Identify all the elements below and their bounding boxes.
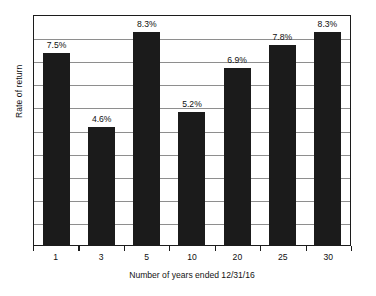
bar[interactable]: 5.2%	[178, 112, 205, 245]
bar-value-label: 4.6%	[92, 114, 112, 124]
bar-value-label: 5.2%	[182, 99, 202, 109]
plot-area: 7.5%4.6%8.3%5.2%6.9%7.8%8.3%	[33, 15, 351, 246]
bar-slot: 4.6%	[79, 16, 124, 245]
x-axis-tick-label: 3	[78, 252, 123, 262]
bar-value-label: 8.3%	[318, 19, 338, 29]
bar-slot: 8.3%	[124, 16, 169, 245]
bar-value-label: 7.8%	[272, 32, 292, 42]
bar-slot: 5.2%	[169, 16, 214, 245]
x-axis-tick	[33, 246, 34, 251]
x-axis-tick	[169, 246, 170, 251]
x-axis-tick	[78, 246, 79, 251]
x-axis-tick	[260, 246, 261, 251]
bar[interactable]: 7.5%	[43, 53, 70, 246]
bar[interactable]: 7.8%	[269, 45, 296, 245]
x-axis-tick-label: 5	[124, 252, 169, 262]
x-axis-title: Number of years ended 12/31/16	[33, 270, 351, 280]
x-axis-ticks	[33, 246, 351, 251]
bar-value-label: 8.3%	[137, 19, 157, 29]
x-axis-tick	[215, 246, 216, 251]
bars-layer: 7.5%4.6%8.3%5.2%6.9%7.8%8.3%	[34, 16, 350, 245]
bar[interactable]: 8.3%	[314, 32, 341, 245]
x-axis-tick	[351, 246, 352, 251]
x-axis-tick-label: 30	[306, 252, 351, 262]
bar-value-label: 6.9%	[227, 55, 247, 65]
bar[interactable]: 8.3%	[133, 32, 160, 245]
bar-slot: 7.5%	[34, 16, 79, 245]
bar-chart-figure: Rate of return 7.5%4.6%8.3%5.2%6.9%7.8%8…	[0, 0, 376, 296]
bar-slot: 8.3%	[305, 16, 350, 245]
bar[interactable]: 4.6%	[88, 127, 115, 245]
x-axis-tick	[306, 246, 307, 251]
x-axis-tick-label: 1	[33, 252, 78, 262]
x-axis-tick-label: 10	[169, 252, 214, 262]
bar-slot: 6.9%	[215, 16, 260, 245]
bar-slot: 7.8%	[260, 16, 305, 245]
bar[interactable]: 6.9%	[224, 68, 251, 245]
bar-value-label: 7.5%	[47, 40, 67, 50]
x-axis-tick	[124, 246, 125, 251]
x-axis-tick-label: 25	[260, 252, 305, 262]
x-axis-tick-labels: 13510202530	[33, 252, 351, 262]
y-axis-title: Rate of return	[14, 28, 24, 118]
x-axis-tick-label: 20	[215, 252, 260, 262]
